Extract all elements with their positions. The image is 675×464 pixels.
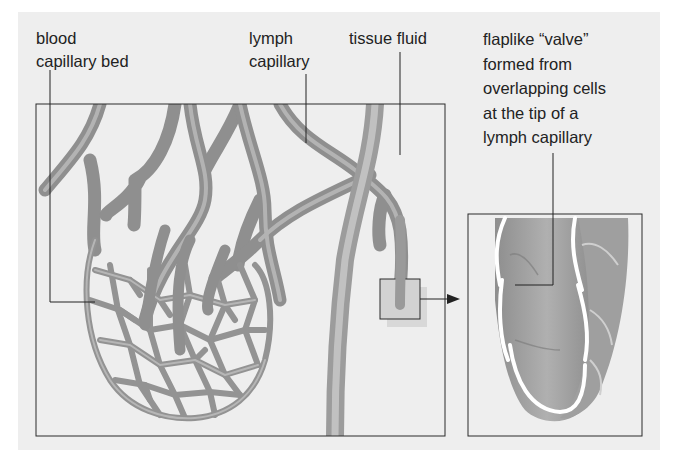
label-line: formed from	[483, 52, 606, 77]
label-line: lymph	[249, 27, 310, 50]
label-tissue-fluid: tissue fluid	[349, 27, 427, 50]
label-line: blood	[36, 27, 129, 50]
label-blood-capillary-bed: blood capillary bed	[36, 27, 129, 73]
blood-capillary-bed	[45, 104, 402, 436]
label-lymph-capillary: lymph capillary	[249, 27, 310, 73]
label-line: flaplike “valve”	[483, 27, 606, 52]
label-line: tissue fluid	[349, 27, 427, 50]
label-valve: flaplike “valve” formed from overlapping…	[483, 27, 606, 150]
label-line: lymph capillary	[483, 125, 606, 150]
magnified-capillary-tip	[495, 218, 628, 421]
label-line: at the tip of a	[483, 101, 606, 126]
arrow-head-icon	[447, 294, 460, 304]
lymph-capillary-tip	[400, 220, 401, 305]
label-line: capillary	[249, 50, 310, 73]
label-line: overlapping cells	[483, 76, 606, 101]
label-line: capillary bed	[36, 50, 129, 73]
